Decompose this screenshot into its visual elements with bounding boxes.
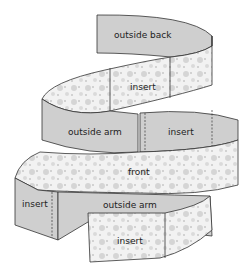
spiral-band-diagram: outside back insert outside arm insert f…	[0, 0, 250, 269]
label-insert-3: insert	[22, 199, 48, 209]
outside-back-panel: outside back	[97, 15, 212, 57]
label-insert-2: insert	[168, 127, 194, 137]
label-insert-1: insert	[130, 82, 156, 92]
label-insert-4: insert	[117, 236, 143, 246]
label-front: front	[128, 167, 150, 177]
label-outside-arm-2: outside arm	[103, 200, 157, 210]
label-outside-back: outside back	[114, 30, 172, 40]
label-outside-arm-1: outside arm	[68, 127, 122, 137]
